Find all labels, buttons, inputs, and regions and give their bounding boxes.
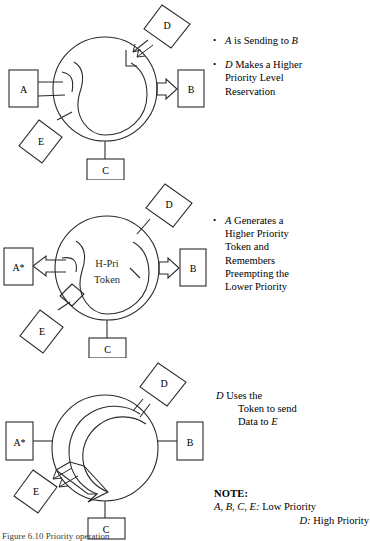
bullet-list-step-2: A Generates a Higher Priority Token and … — [213, 214, 368, 293]
node-a-star: A* — [6, 422, 33, 460]
note-value: High Priority — [313, 515, 369, 526]
node-b-label: B — [188, 84, 195, 95]
bullet-item: A is Sending to B — [213, 34, 368, 47]
annotations-step-3: D Uses the Token to send Data to E — [216, 389, 366, 429]
ring-outer-circle — [53, 37, 157, 141]
center-label-line2: Token — [94, 274, 121, 285]
step3-line: Token to send — [238, 403, 297, 414]
annotations-step-2: A Generates a Higher Priority Token and … — [213, 214, 368, 304]
bullet-line: Reservation — [225, 86, 275, 97]
token-notch-right — [130, 268, 140, 278]
ring-outer-circle — [52, 395, 158, 501]
step3-tail: E — [271, 416, 277, 427]
ring-diagram-step-3: A* B C D E — [0, 352, 210, 541]
node-b: B — [178, 70, 204, 107]
note-block: NOTE: A, B, C, E: Low Priority D: High P… — [214, 487, 370, 527]
node-d: D — [140, 363, 186, 406]
block-arrow-to-a-star — [33, 256, 66, 276]
spoke-a — [38, 82, 65, 96]
step3-line: Uses the — [226, 390, 262, 401]
bullet-line: Preempting the — [225, 268, 289, 279]
node-c: C — [87, 159, 124, 180]
bullet-item: A Generates a Higher Priority Token and … — [213, 214, 368, 293]
node-b: B — [177, 422, 203, 460]
token-stream-arc — [69, 406, 140, 494]
node-d: D — [146, 184, 192, 227]
node-d-label: D — [163, 20, 170, 31]
step3-line: Data to — [238, 416, 271, 427]
node-a-star-label: A* — [13, 437, 25, 448]
note-row-low-priority: A, B, C, E: Low Priority — [214, 500, 370, 513]
node-b-label: B — [187, 437, 194, 448]
bullet-item: D Makes a Higher Priority Level Reservat… — [213, 58, 368, 98]
node-e-label: E — [33, 486, 39, 497]
node-a-label: A — [20, 84, 28, 95]
block-arrow-to-b — [157, 79, 177, 99]
bullet-lead: D — [225, 59, 233, 70]
node-e: E — [19, 120, 62, 163]
node-a: A — [9, 70, 38, 107]
node-a-star-label: A* — [12, 262, 24, 273]
bullet-line: Token and — [225, 241, 269, 252]
node-d-label: D — [165, 199, 172, 210]
node-e: E — [20, 310, 63, 353]
bullet-lead: A — [225, 215, 231, 226]
bullet-line: Remembers — [225, 255, 275, 266]
step3-text: D Uses the Token to send Data to E — [216, 389, 366, 429]
bullet-list-step-1: A is Sending to B D Makes a Higher Prior… — [213, 34, 368, 98]
ring-diagram-step-2: H-Pri Token A* B C D E — [0, 178, 210, 358]
ring-diagram-step-1: A B C D E — [0, 0, 210, 180]
bullet-line: Priority Level — [225, 72, 284, 83]
node-e-label: E — [38, 136, 44, 147]
note-heading: NOTE: — [214, 487, 370, 500]
figure-page: A B C D E — [0, 0, 370, 541]
token-stream-arc-inner — [83, 417, 146, 492]
step3-lead: D — [216, 390, 224, 401]
block-arrow-to-b — [159, 258, 179, 278]
data-stream-arc — [74, 62, 147, 135]
spoke-d — [133, 399, 150, 417]
note-items: A, B, C, E: — [214, 501, 260, 512]
spoke-e — [58, 302, 70, 310]
note-row-high-priority: D: High Priority — [214, 514, 370, 527]
node-b: B — [180, 249, 206, 286]
bullet-line: Makes a Higher — [235, 59, 302, 70]
node-c-label: C — [102, 165, 109, 176]
bullet-line: Generates a — [234, 215, 283, 226]
node-b-label: B — [190, 263, 197, 274]
center-label-line1: H-Pri — [95, 258, 118, 269]
bullet-tail: B — [292, 35, 298, 46]
annotations-step-1: A is Sending to B D Makes a Higher Prior… — [213, 34, 368, 109]
node-a-star: A* — [4, 248, 33, 285]
bullet-line: Lower Priority — [225, 281, 287, 292]
data-stream-tail — [62, 72, 73, 92]
bullet-rest: is Sending to — [231, 35, 291, 46]
node-e: E — [14, 470, 57, 513]
node-d-label: D — [160, 378, 167, 389]
node-d: D — [144, 5, 190, 48]
figure-caption: Figure 6.10 Priority operation — [2, 531, 302, 541]
bullet-line: Higher Priority — [225, 228, 289, 239]
note-value: Low Priority — [262, 501, 316, 512]
note-items: D: — [300, 515, 311, 526]
node-e-label: E — [39, 326, 45, 337]
